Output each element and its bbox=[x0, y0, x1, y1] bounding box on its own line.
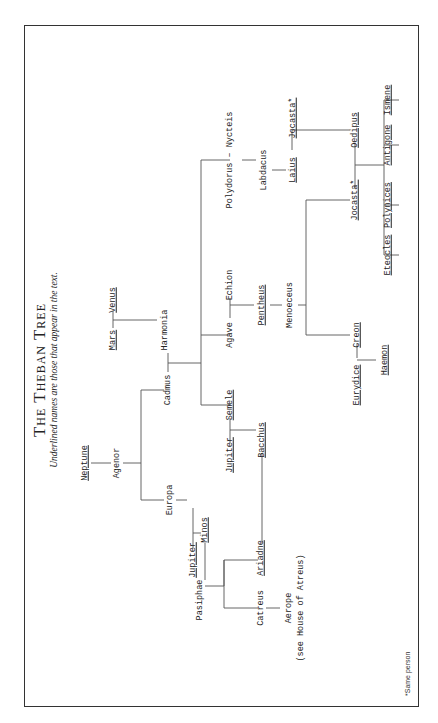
person-jupiter-semele: Jupiter bbox=[226, 437, 235, 473]
person-ariadne: Ariadne bbox=[257, 540, 266, 576]
person-venus: Venus bbox=[109, 287, 118, 313]
person-eurydice: Eurydice bbox=[353, 365, 362, 406]
person-europa: Europa bbox=[166, 485, 175, 516]
person-echion: Echion bbox=[226, 270, 235, 301]
diagram-subtitle: Underlined names are those that appear i… bbox=[49, 272, 59, 468]
person-polydorus-nycteis: Polydorus – Nycteis bbox=[226, 112, 235, 209]
diagram-title: The Theban Tree bbox=[30, 303, 50, 437]
person-aerope: Aerope bbox=[285, 593, 294, 624]
theban-tree-diagram: The Theban Tree Underlined names are tho… bbox=[24, 25, 420, 708]
person-agenor: Agenor bbox=[113, 448, 122, 479]
person-pentheus: Pentheus bbox=[258, 285, 267, 326]
person-creon: Creon bbox=[353, 322, 362, 348]
person-bacchus: Bacchus bbox=[258, 422, 267, 458]
person-polynices: Polynices bbox=[384, 182, 393, 228]
person-cadmus: Cadmus bbox=[164, 375, 173, 406]
person-eteocles: Eteocles bbox=[384, 235, 393, 276]
person-semele: Semele bbox=[226, 390, 235, 421]
person-harmonia: Harmonia bbox=[161, 310, 170, 351]
person-haemon: Haemon bbox=[381, 345, 390, 376]
person-jocasta-2: Jocasta* bbox=[351, 180, 360, 221]
person-neptune: Neptune bbox=[81, 445, 90, 481]
footnote: *Same person bbox=[404, 652, 411, 696]
person-ismene: Ismene bbox=[384, 85, 393, 116]
person-catreus: Catreus bbox=[257, 590, 266, 626]
aerope-note: (see House of Atreus) bbox=[297, 554, 306, 661]
person-oedipus: Oedipus bbox=[351, 112, 360, 148]
person-jupiter-europa: Jupiter bbox=[189, 542, 198, 578]
person-mars: Mars bbox=[109, 330, 118, 350]
person-jocasta-1: Jocasta* bbox=[289, 98, 298, 139]
person-menoeceus: Menoeceus bbox=[286, 282, 295, 328]
person-minos: Minos bbox=[201, 517, 210, 543]
person-agave: Agave bbox=[226, 322, 235, 348]
person-antigone: Antigone bbox=[384, 125, 393, 166]
person-laius: Laius bbox=[289, 157, 298, 183]
person-labdacus: Labdacus bbox=[260, 150, 269, 191]
person-pasiphae: Pasiphae bbox=[196, 580, 205, 621]
